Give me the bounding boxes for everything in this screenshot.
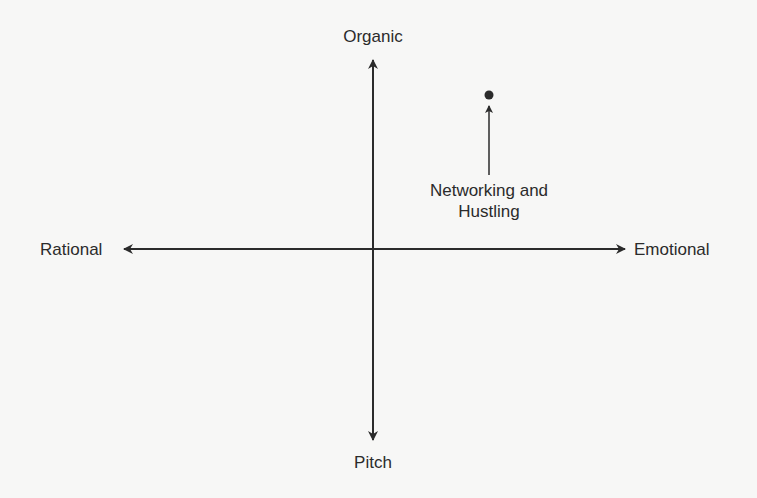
networking-point: [485, 91, 494, 176]
diagram-canvas: Organic Pitch Rational Emotional Network…: [0, 0, 757, 498]
axis-label-bottom: Pitch: [354, 454, 392, 471]
axis-label-right: Emotional: [634, 241, 710, 258]
point-marker-icon: [485, 91, 494, 100]
point-label: Networking and Hustling: [430, 180, 548, 222]
axis-label-top: Organic: [343, 28, 403, 45]
axis-label-left: Rational: [40, 241, 102, 258]
